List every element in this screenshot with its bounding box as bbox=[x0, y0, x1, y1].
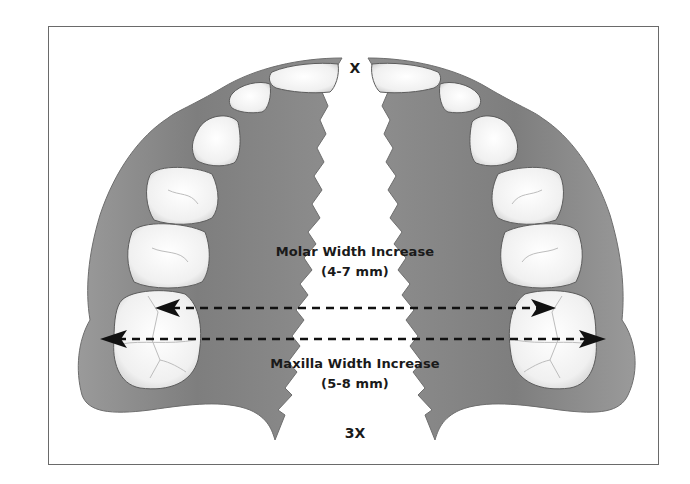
tooth-right-premolar-1 bbox=[492, 167, 563, 224]
bottom-expansion-marker: 3X bbox=[330, 425, 380, 441]
tooth-left-premolar-2 bbox=[128, 224, 210, 288]
molar-width-range: (4-7 mm) bbox=[240, 264, 470, 279]
maxilla-width-range: (5-8 mm) bbox=[240, 376, 470, 391]
top-expansion-marker: X bbox=[345, 60, 365, 76]
tooth-right-premolar-2 bbox=[501, 224, 583, 288]
tooth-left-premolar-1 bbox=[147, 167, 218, 224]
maxilla-width-title: Maxilla Width Increase bbox=[240, 356, 470, 371]
tooth-left-first-molar bbox=[114, 291, 201, 389]
molar-width-title: Molar Width Increase bbox=[240, 244, 470, 259]
